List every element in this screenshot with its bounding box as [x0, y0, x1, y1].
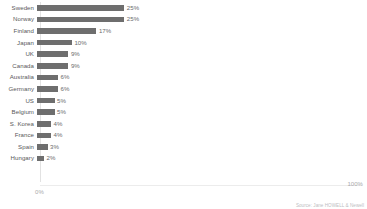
plot-area: Sweden 25% Norway 25% Finland 17% Japan: [0, 2, 367, 182]
bar-row: France 4%: [0, 130, 367, 142]
bar: [37, 121, 51, 127]
bar: [37, 28, 96, 34]
bar-track: 17%: [37, 25, 367, 37]
category-label: Japan: [0, 40, 37, 46]
bar: [37, 156, 44, 162]
category-label: S. Korea: [0, 121, 37, 127]
category-label: Sweden: [0, 5, 37, 11]
value-label: 5%: [57, 109, 66, 115]
bar-track: 25%: [37, 14, 367, 26]
value-label: 5%: [57, 98, 66, 104]
bar-row: Canada 9%: [0, 60, 367, 72]
bar-track: 6%: [37, 83, 367, 95]
category-label: US: [0, 98, 37, 104]
bar: [37, 109, 55, 115]
bar: [37, 40, 72, 46]
bar-track: 6%: [37, 72, 367, 84]
category-label: Australia: [0, 74, 37, 80]
bar-row: US 5%: [0, 95, 367, 107]
bar-track: 3%: [37, 141, 367, 153]
bar: [37, 17, 124, 23]
bar: [37, 98, 55, 104]
bar-row: Spain 3%: [0, 141, 367, 153]
value-label: 3%: [50, 144, 59, 150]
value-label: 25%: [127, 5, 139, 11]
category-label: Canada: [0, 63, 37, 69]
value-label: 9%: [71, 63, 80, 69]
bar-row: Norway 25%: [0, 14, 367, 26]
value-label: 4%: [54, 132, 63, 138]
bar-row: Hungary 2%: [0, 153, 367, 165]
bar-row: Finland 17%: [0, 25, 367, 37]
bar-row: Germany 6%: [0, 83, 367, 95]
bar-row: S. Korea 4%: [0, 118, 367, 130]
value-label: 25%: [127, 16, 139, 22]
bar-track: 5%: [37, 95, 367, 107]
bar: [37, 75, 58, 81]
value-label: 4%: [54, 121, 63, 127]
category-label: UK: [0, 51, 37, 57]
category-label: Finland: [0, 28, 37, 34]
bar-track: 25%: [37, 2, 367, 14]
bar: [37, 63, 68, 69]
axis-tick-zero: 0%: [35, 189, 44, 195]
axis-tick-hundred: 100%: [347, 181, 363, 187]
bar-row: Australia 6%: [0, 72, 367, 84]
value-label: 10%: [74, 40, 86, 46]
value-label: 9%: [71, 51, 80, 57]
bar: [37, 51, 68, 57]
category-label: Spain: [0, 144, 37, 150]
category-label: Germany: [0, 86, 37, 92]
category-label: Hungary: [0, 155, 37, 161]
bar-row: UK 9%: [0, 48, 367, 60]
bar-chart: Sweden 25% Norway 25% Finland 17% Japan: [0, 0, 367, 209]
bar-track: 5%: [37, 106, 367, 118]
category-label: Norway: [0, 16, 37, 22]
value-label: 17%: [99, 28, 111, 34]
source-note: Source: Jane HOWELL & Newell: [296, 203, 364, 208]
value-label: 2%: [47, 155, 56, 161]
bar-track: 9%: [37, 60, 367, 72]
bar-row: Japan 10%: [0, 37, 367, 49]
bar: [37, 133, 51, 139]
bar-track: 4%: [37, 130, 367, 142]
bar: [37, 144, 48, 150]
category-label: France: [0, 132, 37, 138]
bar: [37, 5, 124, 11]
bar-track: 10%: [37, 37, 367, 49]
category-label: Belgium: [0, 109, 37, 115]
axis-baseline: [40, 185, 362, 186]
bar-row: Belgium 5%: [0, 106, 367, 118]
value-label: 6%: [61, 86, 70, 92]
bar-track: 4%: [37, 118, 367, 130]
value-label: 6%: [61, 74, 70, 80]
bar-track: 9%: [37, 48, 367, 60]
bar: [37, 86, 58, 92]
bar-row: Sweden 25%: [0, 2, 367, 14]
bar-track: 2%: [37, 153, 367, 165]
